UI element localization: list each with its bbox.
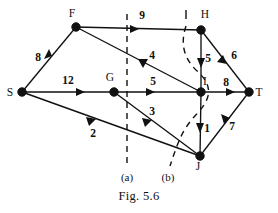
node-f[interactable]	[72, 23, 80, 31]
cut-label-a: (a)	[121, 171, 134, 184]
edge-capacity-g-i: 5	[150, 75, 156, 87]
node-label-h: H	[201, 8, 209, 20]
edge-f-h	[76, 25, 201, 33]
edge-capacity-s-f: 8	[35, 51, 41, 63]
figure-container: S F G H I J T 8 12 2 9 4 5 3 5 6 8 1 7 (…	[0, 0, 278, 213]
arrowhead-g-i	[146, 88, 155, 96]
node-t[interactable]	[245, 88, 253, 96]
edge-capacity-s-j: 2	[90, 127, 96, 139]
arrowhead-f-h	[130, 25, 139, 33]
edge-capacity-i-t: 8	[223, 76, 229, 88]
cut-label-b: (b)	[162, 171, 175, 184]
node-h[interactable]	[197, 26, 205, 34]
node-i[interactable]	[197, 88, 205, 96]
arrowhead-i-t	[226, 88, 235, 96]
node-label-s: S	[7, 86, 13, 98]
edge-i-f	[76, 27, 201, 92]
node-j[interactable]	[196, 152, 204, 160]
edge-capacity-g-j: 3	[149, 105, 155, 117]
edge-i-j	[196, 92, 204, 156]
arrowhead-s-g	[76, 88, 85, 96]
node-label-t: T	[255, 86, 262, 98]
network-diagram: S F G H I J T 8 12 2 9 4 5 3 5 6 8 1 7 (…	[0, 0, 278, 213]
arrowhead-h-t	[217, 55, 227, 64]
node-label-j: J	[196, 160, 201, 172]
edge-capacity-j-t: 7	[229, 120, 235, 132]
edge-capacity-s-g: 12	[62, 74, 74, 86]
node-s[interactable]	[18, 88, 26, 96]
node-label-i: I	[203, 75, 207, 87]
node-label-g: G	[106, 71, 114, 83]
arrowhead-h-i	[197, 58, 205, 68]
figure-caption: Fig. 5.6	[0, 189, 278, 204]
node-g[interactable]	[110, 88, 118, 96]
arrowhead-i-j	[196, 123, 204, 133]
edge-capacity-f-h: 9	[139, 9, 145, 21]
edge-s-g	[22, 88, 114, 96]
edge-capacity-h-i: 5	[205, 52, 211, 64]
edge-capacity-i-j: 1	[204, 122, 210, 134]
node-label-f: F	[69, 7, 75, 19]
edge-capacity-h-t: 6	[231, 49, 237, 61]
edge-capacity-i-f: 4	[149, 49, 155, 61]
edge-s-j	[22, 92, 200, 156]
